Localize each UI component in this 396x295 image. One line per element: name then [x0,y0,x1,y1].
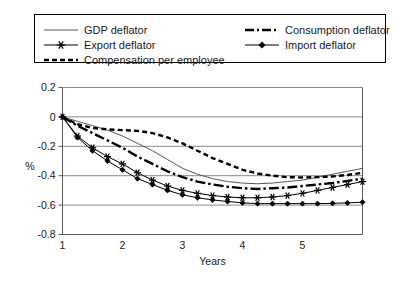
y-tick-label: -0.8 [37,228,55,240]
data-point-asterisk [299,190,306,196]
x-tick-label: 1 [60,239,66,251]
data-point-asterisk [134,170,141,176]
legend-label: Consumption deflator [285,24,390,36]
legend-label: Export deflator [84,39,156,51]
x-tick-label: 3 [180,239,186,251]
x-tick-label: 2 [120,239,126,251]
data-point-diamond [120,167,125,172]
data-point-asterisk [119,161,126,167]
deflator-line-chart: GDP deflatorConsumption deflatorExport d… [0,0,396,295]
legend-label: Compensation per employee [84,54,225,66]
series-group [59,114,366,207]
y-tick-label: -0.4 [37,169,55,181]
legend-label: Import deflator [285,39,356,51]
y-tick-label: -0.2 [37,140,55,152]
data-point-asterisk [329,184,336,190]
y-tick-label: -0.6 [37,199,55,211]
series-line [63,117,363,184]
x-axis-title: Years [199,255,225,267]
series-compensation-per-employee [63,117,363,178]
x-tick-label: 5 [300,239,306,251]
series-gdp-deflator [63,117,363,184]
chart-container: GDP deflatorConsumption deflatorExport d… [0,0,396,295]
data-point-asterisk [314,187,321,193]
y-axis-title: % [25,160,34,172]
legend-label: GDP deflator [84,24,148,36]
data-point-diamond [360,199,365,204]
data-point-asterisk [269,194,276,200]
series-line [63,117,363,178]
data-point-diamond [135,176,140,181]
x-tick-label: 4 [240,239,246,251]
data-point-asterisk [284,192,291,198]
y-tick-label: 0.2 [41,81,56,93]
plot-area [59,88,363,235]
y-tick-label: 0 [50,111,56,123]
data-point-asterisk [254,195,261,201]
